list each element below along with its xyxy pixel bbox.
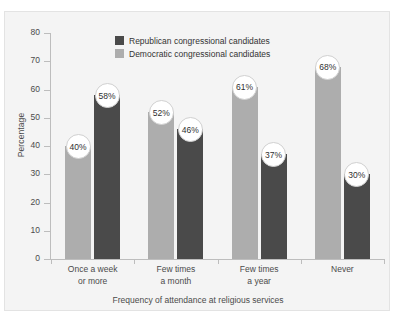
category-label-line: Once a week — [47, 264, 139, 276]
y-axis-tick — [44, 33, 50, 34]
category-label-line: Few times — [130, 264, 222, 276]
bar-dem[interactable] — [232, 87, 258, 259]
bar-rep[interactable] — [94, 95, 120, 259]
x-axis-category-label: Once a weekor more — [47, 264, 139, 287]
y-axis-tick-label: 10 — [5, 230, 40, 231]
y-axis-tick — [44, 174, 50, 175]
bar-value-badge: 61% — [232, 75, 257, 100]
category-label-line: or more — [47, 276, 139, 288]
x-axis-category-label: Few timesa year — [213, 264, 305, 287]
chart-figure: Percentage 01020304050607080 Once a week… — [4, 11, 390, 311]
bar-rep[interactable] — [261, 154, 287, 259]
x-axis-category-label: Few timesa month — [130, 264, 222, 287]
y-axis-tick — [44, 259, 50, 260]
x-axis-title: Frequency of attendance at religious ser… — [5, 295, 391, 305]
y-axis-tick-label: 20 — [5, 202, 40, 203]
y-axis-tick — [44, 146, 50, 147]
legend-swatch-icon — [115, 36, 124, 45]
y-axis-tick-label: 60 — [5, 89, 40, 90]
legend-item-label: Republican congressional candidates — [129, 36, 270, 46]
category-label-line: Few times — [213, 264, 305, 276]
y-axis-tick-label: 30 — [5, 173, 40, 174]
chart-legend: Republican congressional candidatesDemoc… — [115, 34, 270, 60]
bar-dem[interactable] — [315, 67, 341, 259]
y-axis-tick-label: 50 — [5, 117, 40, 118]
y-axis-tick-label: 80 — [5, 32, 40, 33]
bar-value-badge: 52% — [149, 100, 174, 125]
bar-rep[interactable] — [177, 129, 203, 259]
bar-value-badge: 58% — [95, 83, 120, 108]
legend-item[interactable]: Republican congressional candidates — [115, 34, 270, 47]
category-label-line: Never — [296, 264, 388, 276]
legend-swatch-icon — [115, 49, 124, 58]
y-axis-tick — [44, 90, 50, 91]
legend-item[interactable]: Democratic congressional candidates — [115, 47, 270, 60]
y-axis-title: Percentage — [16, 90, 26, 180]
y-axis-tick — [44, 61, 50, 62]
y-axis-tick — [44, 231, 50, 232]
y-axis-tick — [44, 118, 50, 119]
category-label-line: a year — [213, 276, 305, 288]
bar-dem[interactable] — [65, 146, 91, 259]
y-axis-tick-label: 40 — [5, 145, 40, 146]
plot-area: 40%58%52%46%61%37%68%30% — [51, 33, 384, 259]
legend-item-label: Democratic congressional candidates — [129, 49, 270, 59]
x-axis-category-label: Never — [296, 264, 388, 276]
bar-value-badge: 46% — [178, 117, 203, 142]
bar-dem[interactable] — [148, 112, 174, 259]
y-axis-tick — [44, 203, 50, 204]
y-axis-tick-label: 70 — [5, 60, 40, 61]
bar-value-badge: 40% — [66, 134, 91, 159]
y-axis-tick-label: 0 — [5, 258, 40, 259]
category-label-line: a month — [130, 276, 222, 288]
